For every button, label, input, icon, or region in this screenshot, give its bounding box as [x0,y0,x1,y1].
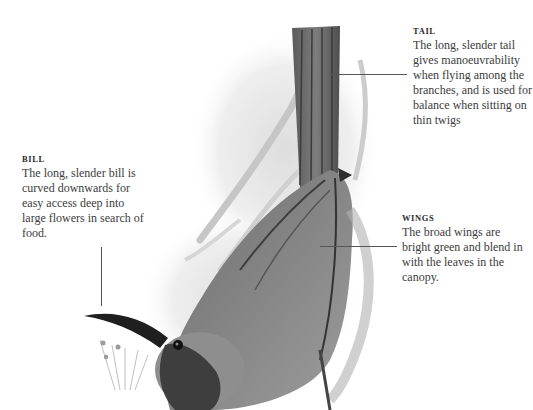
wings-leader-line [320,246,397,247]
bird-tail [292,26,340,190]
bill-leader-line [101,247,102,306]
tail-leader-line [330,74,407,75]
wings-annotation: WINGS The broad wings are bright green a… [402,213,527,285]
wings-title: WINGS [402,213,527,223]
bill-title: BILL [22,154,144,164]
bill-annotation: BILL The long, slender bill is curved do… [22,154,144,241]
tail-annotation: TAIL The long, slender tail gives manoeu… [413,26,533,128]
wings-description: The broad wings are bright green and ble… [402,225,527,285]
bill-description: The long, slender bill is curved downwar… [22,166,144,241]
tail-description: The long, slender tail gives manoeuvrabi… [413,38,533,128]
tail-title: TAIL [413,26,533,36]
